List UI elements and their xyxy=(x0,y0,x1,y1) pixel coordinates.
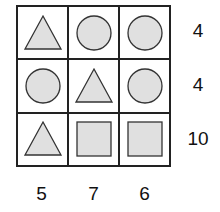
circle-icon xyxy=(74,13,114,53)
shape-grid xyxy=(16,5,171,167)
triangle-icon xyxy=(23,13,63,53)
cell-r1-c3 xyxy=(119,6,170,59)
cell-r3-c2 xyxy=(68,113,119,166)
cell-r2-c1 xyxy=(17,59,68,112)
triangle-icon xyxy=(23,119,63,159)
square-icon xyxy=(125,119,165,159)
circle-icon xyxy=(23,66,63,106)
col-sum-2: 7 xyxy=(68,183,119,205)
circle-icon xyxy=(125,13,165,53)
cell-r2-c3 xyxy=(119,59,170,112)
row-sum-2: 4 xyxy=(180,74,216,96)
row-sum-3: 10 xyxy=(180,128,216,150)
square-icon xyxy=(74,119,114,159)
row-sum-1: 4 xyxy=(180,20,216,42)
cell-r3-c1 xyxy=(17,113,68,166)
cell-r1-c2 xyxy=(68,6,119,59)
circle-icon xyxy=(125,66,165,106)
cell-r2-c2 xyxy=(68,59,119,112)
triangle-icon xyxy=(74,66,114,106)
cell-r1-c1 xyxy=(17,6,68,59)
col-sum-3: 6 xyxy=(119,183,170,205)
col-sum-1: 5 xyxy=(16,183,67,205)
cell-r3-c3 xyxy=(119,113,170,166)
